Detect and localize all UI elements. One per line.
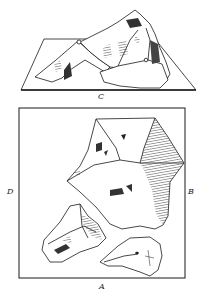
label-a: A bbox=[99, 283, 105, 291]
perspective-model bbox=[21, 10, 196, 90]
illustration bbox=[0, 0, 203, 296]
label-d: D bbox=[7, 188, 13, 196]
lower-right-block-plan bbox=[100, 237, 162, 276]
label-c: C bbox=[98, 93, 104, 101]
label-b: B bbox=[188, 188, 194, 196]
plan-view bbox=[19, 108, 185, 278]
